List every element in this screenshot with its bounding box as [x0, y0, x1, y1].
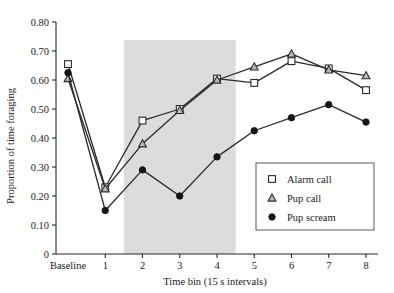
legend-item-label: Pup call — [287, 193, 321, 204]
legend-item-label: Alarm call — [287, 174, 332, 185]
y-tick-label: 0 — [44, 249, 49, 260]
y-tick-label: 0.40 — [31, 133, 49, 144]
y-axis-title: Proportion of time foraging — [5, 87, 16, 204]
data-point-marker — [65, 70, 71, 76]
y-tick-label: 0.80 — [31, 17, 49, 28]
data-point-marker — [269, 176, 276, 183]
data-point-marker — [139, 117, 146, 124]
data-point-marker — [177, 193, 183, 199]
data-point-marker — [65, 61, 72, 68]
data-point-marker — [363, 87, 370, 94]
x-axis-title: Time bin (15 s intervals) — [163, 276, 267, 288]
y-tick-label: 0.70 — [31, 46, 49, 57]
x-tick-label: 3 — [177, 260, 182, 271]
x-tick-label: 8 — [363, 260, 368, 271]
data-point-marker — [326, 101, 332, 107]
x-tick-label: 2 — [140, 260, 145, 271]
data-point-marker — [363, 119, 369, 125]
y-tick-label: 0.50 — [31, 104, 49, 115]
legend-item-label: Pup scream — [287, 212, 336, 223]
foraging-line-chart: 00.100.200.300.400.500.600.700.80 Baseli… — [0, 0, 394, 293]
x-tick-label: 4 — [214, 260, 220, 271]
y-tick-label: 0.60 — [31, 75, 49, 86]
y-tick-label: 0.30 — [31, 162, 49, 173]
x-tick-label: 5 — [252, 260, 257, 271]
x-tick-label: Baseline — [50, 260, 86, 271]
data-point-marker — [288, 115, 294, 121]
x-tick-label: 6 — [289, 260, 294, 271]
data-point-marker — [139, 167, 145, 173]
data-point-marker — [288, 58, 295, 65]
x-tick-label: 7 — [326, 260, 331, 271]
chart-legend: Alarm callPup callPup scream — [256, 163, 374, 230]
chart-figure: 00.100.200.300.400.500.600.700.80 Baseli… — [0, 0, 394, 293]
y-tick-label: 0.20 — [31, 191, 49, 202]
y-tick-label: 0.10 — [31, 220, 49, 231]
x-tick-label: 1 — [103, 260, 108, 271]
data-point-marker — [102, 207, 108, 213]
data-point-marker — [251, 80, 258, 87]
data-point-marker — [214, 154, 220, 160]
data-point-marker — [251, 128, 257, 134]
data-point-marker — [269, 214, 275, 220]
